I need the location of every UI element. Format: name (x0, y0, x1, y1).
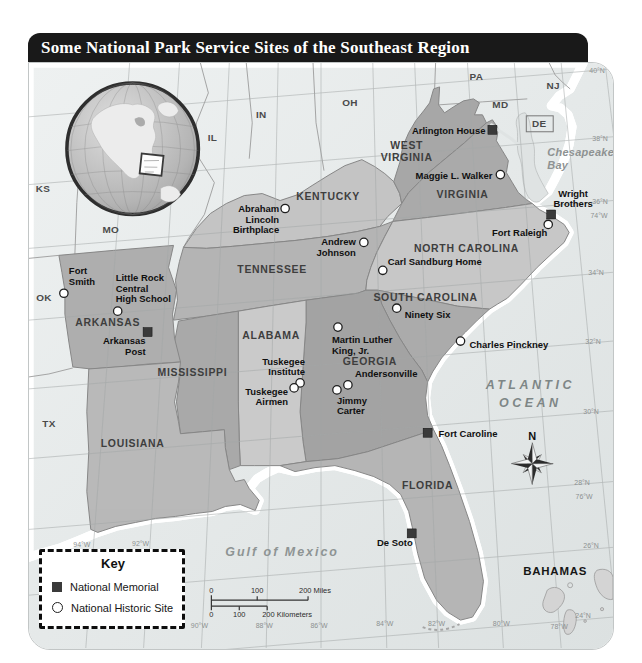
site-charles-pinckney: Charles Pinckney (456, 337, 549, 350)
historic-site-marker-icon (114, 307, 122, 315)
state-label-alabama: ALABAMA (242, 330, 300, 341)
historic-site-marker-icon (393, 304, 401, 312)
memorial-marker-icon (547, 210, 556, 219)
historic-site-marker-icon (333, 386, 341, 394)
site-label-andrew-johnson: AndrewJohnson (316, 236, 356, 257)
water-label-gulf-of-mexico: Gulf of Mexico (225, 545, 339, 559)
state-abbrev-pa: PA (470, 71, 484, 82)
graticule-label-90-w: 90°W (191, 622, 209, 629)
state-abbrev-oh: OH (342, 97, 358, 108)
site-label-ninety-six: Ninety Six (405, 309, 451, 320)
site-label-fort-caroline: Fort Caroline (439, 428, 498, 439)
scale-km-0: 0 (209, 610, 213, 619)
state-label-kentucky: KENTUCKY (296, 191, 360, 202)
graticule-label-84-w: 84°W (376, 620, 394, 627)
scale-miles-0: 0 (209, 586, 213, 595)
scale-miles-200-miles: 200 Miles (299, 586, 331, 595)
key-label-national-memorial: National Memorial (70, 581, 159, 593)
site-label-arlington-house: Arlington House (412, 125, 486, 136)
site-label-jimmy-carter: JimmyCarter (337, 395, 368, 416)
site-label-maggie-l-walker: Maggie L. Walker (416, 170, 493, 181)
state-abbrev-in: IN (256, 109, 267, 120)
key-row-national-historic-site: National Historic Site (52, 597, 182, 618)
graticule-label-74-w: 74°W (590, 212, 608, 219)
site-label-de-soto: De Soto (377, 537, 413, 548)
site-label-andersonville: Andersonville (355, 368, 418, 379)
map-panel: N 0100200 Miles 0100200 Kilometers 40°N3… (28, 62, 614, 650)
country-label-bahamas: BAHAMAS (523, 565, 587, 577)
map-title-bar: Some National Park Service Sites of the … (28, 33, 588, 62)
historic-site-marker-icon (344, 381, 352, 389)
state-abbrev-md: MD (492, 99, 508, 110)
historic-site-marker-icon (290, 384, 298, 392)
state-abbrev-il: IL (208, 132, 217, 143)
graticule-label-78-w: 78°W (551, 623, 569, 630)
graticule-label-24-n: 24°N (575, 612, 591, 619)
country-labels: BAHAMAS (523, 565, 587, 577)
graticule-label-82-w: 82°W (428, 620, 446, 627)
site-label-charles-pinckney: Charles Pinckney (469, 339, 549, 350)
globe-highlight-box (140, 154, 164, 176)
national-historic-site-marker-icon (52, 602, 63, 613)
graticule-label-26-n: 26°N (583, 542, 599, 549)
historic-site-marker-icon (379, 266, 387, 274)
scale-miles-100: 100 (251, 586, 263, 595)
graticule-label-38-n: 38°N (592, 135, 608, 142)
site-maggie-l-walker: Maggie L. Walker (416, 170, 505, 181)
graticule-label-86-w: 86°W (310, 622, 328, 629)
state-abbrev-de: DE (532, 118, 546, 129)
memorial-marker-icon (488, 125, 497, 134)
key-title: Key (52, 556, 174, 571)
state-label-tennessee: TENNESSEE (237, 264, 307, 275)
site-arlington-house: Arlington House (412, 125, 497, 136)
map-title: Some National Park Service Sites of the … (41, 38, 470, 58)
page: Some National Park Service Sites of the … (0, 0, 642, 663)
state-label-virginia: VIRGINIA (436, 189, 488, 200)
compass-n-label: N (528, 430, 536, 442)
bahama-island (584, 620, 587, 623)
historic-site-marker-icon (281, 204, 289, 212)
state-abbrev-mo: MO (102, 224, 119, 235)
site-label-fort-raleigh: Fort Raleigh (492, 227, 547, 238)
historic-site-marker-icon (60, 289, 68, 297)
bahama-island (600, 608, 603, 611)
graticule-label-76-w: 76°W (576, 493, 594, 500)
state-label-florida: FLORIDA (402, 480, 453, 491)
historic-site-marker-icon (496, 170, 504, 178)
key-row-national-memorial: National Memorial (52, 576, 182, 597)
historic-site-marker-icon (360, 238, 368, 246)
map-key: Key National Memorial National Historic … (39, 549, 185, 629)
state-label-south-carolina: SOUTH CAROLINA (373, 292, 477, 303)
site-label-wright-brothers: WrightBrothers (553, 188, 592, 209)
graticule-label-30-n: 30°N (583, 408, 599, 415)
scale-km-100: 100 (233, 610, 245, 619)
historic-site-marker-icon (334, 323, 342, 331)
state-abbrev-ks: KS (36, 183, 50, 194)
graticule-label-94-w: 94°W (73, 541, 91, 548)
state-abbrev-nj: NJ (547, 80, 560, 91)
graticule-label-80-w: 80°W (493, 620, 511, 627)
state-abbrev-tx: TX (42, 418, 55, 429)
state-label-georgia: GEORGIA (343, 356, 397, 367)
graticule-label-28-n: 28°N (574, 479, 590, 486)
state-label-arkansas: ARKANSAS (75, 317, 140, 328)
scale-km-200-kilometers: 200 Kilometers (262, 610, 312, 619)
key-label-national-historic-site: National Historic Site (71, 602, 173, 614)
site-label-carl-sandburg-home: Carl Sandburg Home (388, 256, 482, 267)
globe-inset (67, 83, 199, 215)
state-label-north-carolina: NORTH CAROLINA (414, 243, 519, 254)
graticule-label-32-n: 32°N (585, 338, 601, 345)
national-memorial-marker-icon (52, 582, 62, 592)
graticule-label-34-n: 34°N (588, 269, 604, 276)
state-label-mississippi: MISSISSIPPI (158, 367, 228, 378)
graticule-label-36-n: 36°N (592, 198, 608, 205)
site-label-tuskegee-institute: TuskegeeInstitute (262, 356, 305, 377)
state-label-louisiana: LOUISIANA (101, 438, 165, 449)
graticule-label-92-w: 92°W (132, 540, 150, 547)
memorial-marker-icon (423, 428, 432, 437)
graticule-label-88-w: 88°W (256, 622, 274, 629)
historic-site-marker-icon (456, 337, 464, 345)
graticule-label-40-n: 40°N (589, 67, 605, 74)
state-abbrev-ok: OK (36, 292, 52, 303)
